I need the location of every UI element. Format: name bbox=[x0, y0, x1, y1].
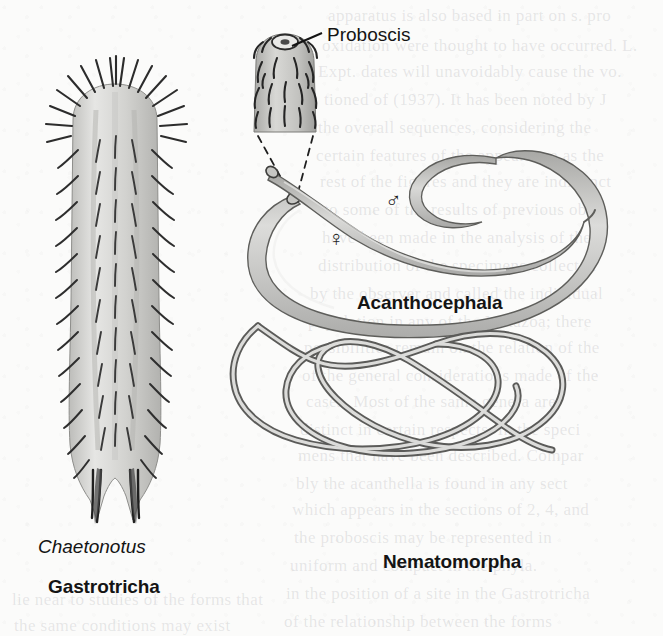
genus-label-chaetonotus: Chaetonotus bbox=[38, 536, 146, 558]
sex-symbol-male: ♂ bbox=[385, 188, 402, 214]
sex-symbol-female: ♀ bbox=[328, 226, 345, 252]
phylum-label-nematomorpha: Nematomorpha bbox=[383, 551, 521, 573]
gastrotricha-specimen bbox=[46, 56, 187, 524]
acanthocephala-male bbox=[268, 172, 584, 276]
phylum-label-gastrotricha: Gastrotricha bbox=[48, 576, 160, 598]
proboscis-inset bbox=[254, 34, 317, 132]
illustration-plate: apparatus is also based in part on s. pr… bbox=[0, 0, 663, 636]
callout-label-proboscis: Proboscis bbox=[327, 24, 410, 46]
acanthocephala-coil-end bbox=[409, 155, 496, 227]
phylum-label-acanthocephala: Acanthocephala bbox=[357, 292, 502, 314]
